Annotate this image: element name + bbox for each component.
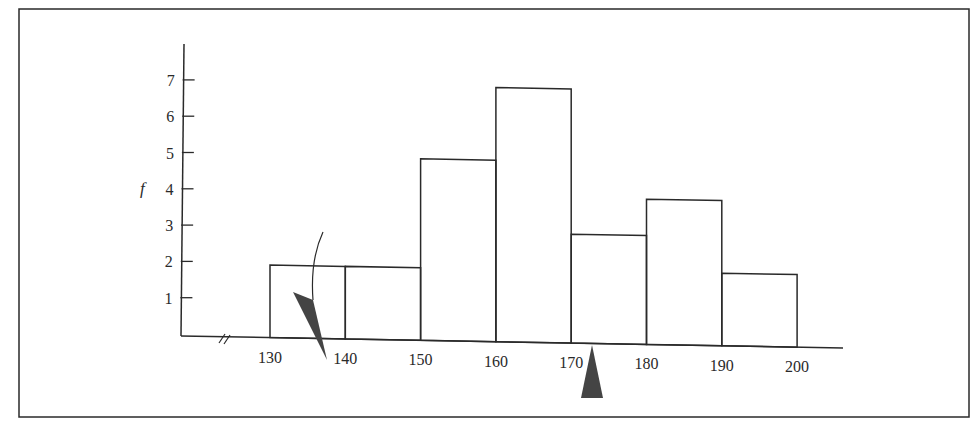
histogram-bars — [270, 88, 797, 348]
curved-arrow-icon — [293, 232, 327, 360]
histogram-bar-180-190 — [647, 199, 722, 346]
x-ticks: 130140150160170180190200 — [258, 349, 809, 376]
histogram-bar-190-200 — [722, 273, 797, 347]
x-tick-label: 160 — [484, 353, 508, 370]
histogram-bar-160-170 — [496, 88, 571, 343]
x-tick-label: 170 — [559, 354, 583, 371]
triangle-marker-icon — [581, 345, 603, 398]
x-tick-label: 130 — [258, 349, 282, 366]
x-tick-label: 140 — [333, 350, 357, 367]
x-tick-label: 190 — [710, 357, 734, 374]
y-ticks: 1234567 — [164, 72, 194, 307]
x-tick-label: 150 — [409, 351, 433, 368]
y-axis-label: f — [140, 179, 147, 198]
y-tick-label: 7 — [167, 72, 175, 89]
histogram-bar-140-150 — [345, 266, 420, 340]
histogram-bar-170-180 — [571, 234, 646, 344]
x-tick-label: 200 — [785, 358, 809, 375]
y-tick-label: 3 — [165, 217, 173, 234]
y-tick-label: 2 — [165, 253, 173, 270]
y-tick-label: 4 — [166, 181, 174, 198]
histogram-figure: 1234567 130140150160170180190200 f — [0, 0, 977, 433]
y-tick-label: 1 — [164, 290, 172, 307]
histogram-bar-150-160 — [421, 159, 496, 342]
x-tick-label: 180 — [635, 355, 659, 372]
y-tick-label: 5 — [166, 145, 174, 162]
axis-break-icon — [219, 334, 230, 344]
y-axis — [181, 44, 184, 336]
y-tick-label: 6 — [166, 108, 174, 125]
